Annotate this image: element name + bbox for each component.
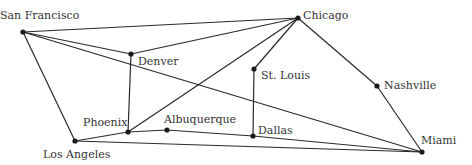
edge-nash-mia [377,86,422,152]
edge-la-phx [75,132,128,141]
node-den [128,51,133,56]
edge-stl-dal [253,69,254,136]
node-label-chi: Chicago [303,9,349,22]
city-network-diagram: San FranciscoDenverChicagoSt. LouisNashv… [0,0,472,165]
node-chi [295,15,300,20]
edge-phx-abq [128,130,167,132]
node-label-dal: Dallas [258,124,293,137]
edge-den-chi [131,18,298,54]
node-label-la: Los Angeles [43,148,111,161]
node-label-mia: Miami [421,134,457,147]
node-mia [419,149,424,154]
edge-sf-den [23,32,131,54]
edge-den-phx [128,54,131,132]
node-label-phx: Phoenix [83,116,128,129]
node-label-nash: Nashville [384,79,436,92]
edge-abq-dal [167,130,253,136]
node-label-den: Denver [138,55,179,68]
node-la [72,138,77,143]
node-stl [251,66,256,71]
node-label-abq: Albuquerque [163,113,236,126]
edge-sf-la [23,32,75,141]
node-label-stl: St. Louis [261,69,310,82]
node-nash [374,83,379,88]
node-dal [250,133,255,138]
node-sf [20,29,25,34]
node-abq [164,127,169,132]
edges-layer [23,18,422,152]
node-label-sf: San Francisco [0,9,80,22]
node-phx [125,129,130,134]
labels-layer: San FranciscoDenverChicagoSt. LouisNashv… [0,9,457,161]
